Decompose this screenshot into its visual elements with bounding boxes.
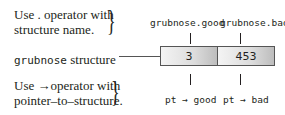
arrow-note-brace-icon: } xyxy=(111,74,120,108)
arrow-note-line-2: pointer–to–structure. xyxy=(14,93,123,108)
structure-word: structure xyxy=(67,52,116,67)
structure-connector-line xyxy=(119,56,160,57)
dot-note-line-2: structure name. xyxy=(14,22,114,37)
arrow-note-line-1: Use →operator with xyxy=(14,78,123,93)
structure-box: 3 453 xyxy=(160,46,275,66)
field-good-arrow-label: pt → good xyxy=(165,94,216,105)
field-bad-top-tick xyxy=(240,33,241,44)
dot-note-brace-icon: } xyxy=(107,3,116,37)
field-bad-dot-label: grubnose.bad xyxy=(220,17,285,28)
field-bad-bottom-tick xyxy=(240,74,241,85)
field-good-top-tick xyxy=(190,33,191,44)
structure-label: grubnose structure xyxy=(14,50,116,68)
dot-operator-note: Use . operator with structure name. xyxy=(14,7,114,37)
field-good-cell: 3 xyxy=(161,47,217,65)
field-bad-arrow-label: pt → bad xyxy=(223,94,269,105)
field-bad-cell: 453 xyxy=(217,47,274,65)
arrow-operator-note: Use →operator with pointer–to–structure. xyxy=(14,78,123,108)
field-good-dot-label: grubnose.good xyxy=(150,17,224,28)
dot-note-line-1: Use . operator with xyxy=(14,7,114,22)
structure-name: grubnose xyxy=(14,54,67,67)
field-good-bottom-tick xyxy=(190,74,191,85)
